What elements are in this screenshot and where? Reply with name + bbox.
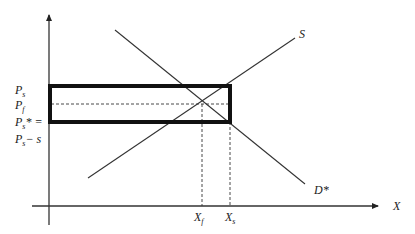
demand-curve xyxy=(115,30,305,184)
supply-label: S xyxy=(299,27,305,41)
xf-label: Xf xyxy=(193,210,205,226)
supply-demand-diagram: X D* S Ps Pf Ps* = Ps− s Xf Xs xyxy=(0,0,415,234)
x-axis-label: X xyxy=(392,199,401,213)
demand-label: D* xyxy=(313,183,329,197)
pf-label: Pf xyxy=(14,98,26,114)
ps-minus-s-label: Ps− s xyxy=(14,132,42,148)
xs-label: Xs xyxy=(224,210,235,226)
ps-label: Ps xyxy=(14,83,25,99)
ps-star-label: Ps* = xyxy=(14,115,43,131)
supply-curve xyxy=(88,38,295,178)
